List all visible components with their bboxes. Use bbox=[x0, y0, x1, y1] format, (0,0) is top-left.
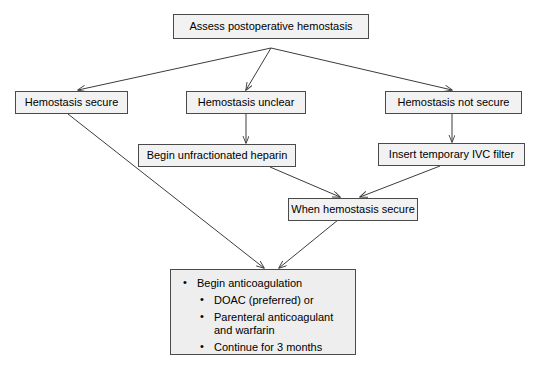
node-begin-anticoagulation[interactable]: Begin anticoagulation DOAC (preferred) o… bbox=[170, 269, 356, 355]
edge-root-to-not-secure bbox=[271, 48, 452, 90]
node-label: Hemostasis secure bbox=[25, 96, 119, 109]
node-hemostasis-secure[interactable]: Hemostasis secure bbox=[15, 91, 128, 114]
sub-bullet-doac: DOAC (preferred) or bbox=[197, 294, 347, 308]
sub-bullet-label: Parenteral anticoagulant and warfarin bbox=[214, 311, 333, 337]
node-label: Assess postoperative hemostasis bbox=[189, 20, 352, 33]
node-when-hemostasis-secure[interactable]: When hemostasis secure bbox=[288, 198, 418, 221]
edge-secure-to-anticoagulation bbox=[68, 114, 264, 268]
edge-when-secure-to-anticoagulation bbox=[279, 220, 338, 268]
sub-bullet-parenteral-warfarin: Parenteral anticoagulant and warfarin bbox=[197, 311, 347, 339]
node-assess-postoperative-hemostasis[interactable]: Assess postoperative hemostasis bbox=[173, 14, 369, 39]
sub-bullet-label: Continue for 3 months bbox=[214, 341, 322, 353]
node-label: Begin unfractionated heparin bbox=[147, 149, 288, 162]
bullet-label: Begin anticoagulation bbox=[197, 277, 302, 289]
sub-bullet-label: DOAC (preferred) or bbox=[214, 294, 314, 306]
edge-heparin-to-when-secure bbox=[270, 167, 340, 197]
node-label: When hemostasis secure bbox=[291, 203, 415, 216]
node-begin-unfractionated-heparin[interactable]: Begin unfractionated heparin bbox=[138, 144, 296, 167]
edge-ivc-filter-to-when-secure bbox=[360, 166, 440, 197]
bullet-begin-anticoagulation: Begin anticoagulation DOAC (preferred) o… bbox=[179, 277, 347, 355]
anticoagulation-sub-bullet-list: DOAC (preferred) or Parenteral anticoagu… bbox=[197, 294, 347, 355]
node-insert-temporary-ivc-filter[interactable]: Insert temporary IVC filter bbox=[378, 143, 525, 166]
flowchart-diagram: Assess postoperative hemostasis Hemostas… bbox=[0, 0, 542, 369]
sub-bullet-continue-3-months: Continue for 3 months bbox=[197, 341, 347, 355]
node-hemostasis-not-secure[interactable]: Hemostasis not secure bbox=[385, 91, 522, 114]
anticoagulation-bullet-list: Begin anticoagulation DOAC (preferred) o… bbox=[179, 277, 347, 358]
node-label: Hemostasis not secure bbox=[398, 96, 510, 109]
node-hemostasis-unclear[interactable]: Hemostasis unclear bbox=[186, 91, 306, 114]
node-label: Hemostasis unclear bbox=[198, 96, 295, 109]
edge-root-to-secure bbox=[78, 48, 271, 90]
node-label: Insert temporary IVC filter bbox=[389, 148, 514, 161]
edge-root-to-unclear bbox=[246, 48, 271, 90]
